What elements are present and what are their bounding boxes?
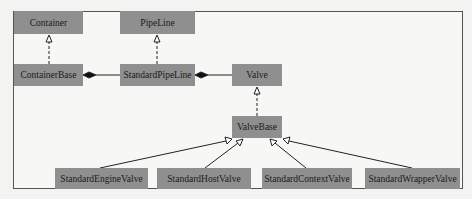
class-container-base: ContainerBase — [14, 64, 83, 86]
class-standard-wrapper-valve: StandardWrapperValve — [365, 168, 460, 189]
class-standard-host-valve: StandardHostValve — [157, 168, 251, 189]
class-container: Container — [14, 11, 83, 34]
class-pipeline: PipeLine — [120, 11, 195, 34]
class-standard-pipeline: StandardPipeLine — [120, 64, 195, 86]
class-valve: Valve — [232, 64, 282, 86]
class-standard-context-valve: StandardContextValve — [262, 168, 352, 189]
class-valve-base: ValveBase — [232, 116, 282, 138]
class-standard-engine-valve: StandardEngineValve — [55, 168, 148, 189]
